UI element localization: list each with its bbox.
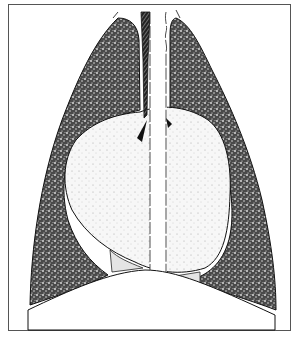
heart (65, 107, 230, 272)
trachea (150, 12, 167, 304)
chest-illustration (0, 0, 296, 343)
apex-line-left (113, 12, 118, 18)
apex-line-right (176, 10, 180, 18)
esophagus (141, 12, 150, 118)
